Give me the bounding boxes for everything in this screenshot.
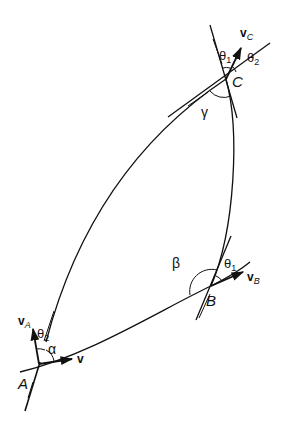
tangent-steep-c xyxy=(210,25,237,118)
label-vc: vC xyxy=(240,26,254,42)
label-va: vA xyxy=(18,314,31,330)
label-alpha: α xyxy=(48,341,56,357)
label-point-c: C xyxy=(232,73,243,90)
label-beta: β xyxy=(172,255,180,271)
theta1-c-arc xyxy=(223,67,230,68)
lines-at-a xyxy=(25,311,72,411)
lines-at-c xyxy=(168,25,270,118)
label-theta2-a: θ2 xyxy=(37,326,49,343)
label-v: v xyxy=(77,352,84,366)
label-point-b: B xyxy=(206,292,216,309)
label-theta1-b: θ1 xyxy=(224,256,236,273)
label-gamma: γ xyxy=(201,104,208,120)
label-theta1-c: θ1 xyxy=(219,48,231,65)
label-vb: vB xyxy=(247,270,260,286)
arc-c-to-b xyxy=(211,79,234,286)
curves xyxy=(20,79,250,372)
theta1-b-arc xyxy=(216,276,222,281)
lines-at-b xyxy=(190,236,243,320)
v-arrow xyxy=(39,359,72,364)
label-point-a: A xyxy=(17,375,28,392)
trajectory-diagram: C B A γ β α θ1 θ2 θ1 θ2 vC vB vA v xyxy=(0,0,285,440)
arc-a-to-c xyxy=(46,79,226,342)
gamma-arc xyxy=(210,91,231,97)
